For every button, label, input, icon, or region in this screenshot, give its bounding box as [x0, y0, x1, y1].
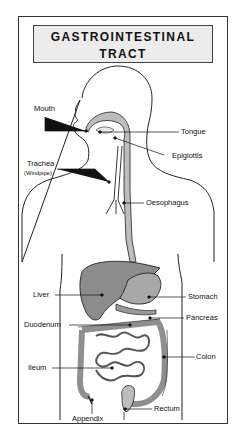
small-intestine	[96, 332, 149, 380]
label-tongue: Tongue	[181, 127, 206, 136]
label-colon: Colon	[196, 352, 216, 361]
label-liver: Liver	[33, 290, 49, 299]
trachea	[106, 146, 124, 214]
label-ileum: Ileum	[28, 363, 46, 372]
label-stomach: Stomach	[188, 292, 218, 301]
pancreas	[116, 304, 156, 315]
label-duodenum: Duodenum	[24, 320, 61, 329]
label-oesophagus: Oesophagus	[146, 198, 189, 207]
nasal-oral-tract	[86, 112, 136, 262]
label-mouth: Mouth	[34, 104, 55, 113]
label-appendix: Appendix	[72, 414, 103, 423]
label-windpipe: (Windpipe)	[24, 170, 52, 176]
label-pancreas: Pancreas	[186, 313, 218, 322]
label-trachea: Trachea	[27, 159, 54, 168]
label-epiglottis: Epiglottis	[172, 151, 202, 160]
rectum	[122, 386, 135, 420]
anatomy-illustration	[0, 0, 237, 446]
label-rectum: Rectum	[154, 404, 180, 413]
